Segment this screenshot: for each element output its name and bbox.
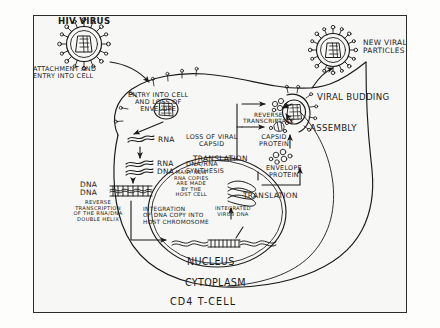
reverse-transcriptase-molecules bbox=[272, 98, 288, 111]
label-cytoplasm: CYTOPLASM bbox=[185, 278, 246, 288]
envelope-protein-molecules bbox=[269, 149, 292, 164]
label-cd4-t-cell: CD4 T-CELL bbox=[170, 297, 236, 307]
label-new-viral-particles: NEW VIRAL PARTICLES bbox=[363, 39, 407, 55]
viral-rna-strand-1 bbox=[128, 136, 154, 142]
label-hiv-virus: HIV VIRUS bbox=[58, 17, 110, 26]
label-integration: INTEGRATION OF DNA COPY INTO HOST CHROMO… bbox=[143, 206, 209, 225]
label-integrated-virus-dna: INTEGRATED VIRUS DNA bbox=[215, 206, 251, 217]
diagram-canvas: HIV VIRUS ATTACHMENT AND ENTRY INTO CELL… bbox=[0, 0, 440, 328]
label-assembly: ASSEMBLY bbox=[310, 124, 357, 133]
label-translation-left: TRANSLATION bbox=[193, 155, 248, 163]
leader-integrated-dna bbox=[236, 227, 243, 238]
host-chromosome-strand bbox=[172, 240, 276, 247]
rna-dna-hybrid-strands bbox=[126, 161, 153, 175]
label-viral-budding: VIRAL BUDDING bbox=[317, 93, 389, 102]
label-rna: RNA bbox=[158, 136, 175, 144]
label-attachment-entry: ATTACHMENT AND ENTRY INTO CELL bbox=[33, 66, 96, 80]
hiv-virion-icon-top-right bbox=[308, 25, 357, 74]
dna-double-helix-ladder bbox=[110, 186, 152, 196]
label-reverse-transcriptase: REVERSE TRANSCRIPTASE bbox=[243, 112, 294, 125]
label-nucleus: NUCLEUS bbox=[187, 257, 235, 267]
arrow-attachment bbox=[110, 62, 149, 82]
label-translation-right: TRANSLATION bbox=[243, 192, 298, 200]
arrow-entry-to-rna bbox=[134, 122, 163, 134]
label-entry-loss-envelope: ENTRY INTO CELL AND LOSS OF ENVELOPE bbox=[128, 92, 188, 113]
label-loss-viral-capsid: LOSS OF VIRAL CAPSID bbox=[186, 134, 238, 148]
label-many-new-rna: MANY NEW RNA COPIES ARE MADE BY THE HOST… bbox=[174, 170, 209, 198]
label-envelope-protein: ENVELOPE PROTEIN bbox=[266, 165, 302, 179]
label-dna-dna: DNA DNA bbox=[80, 181, 97, 197]
label-rna-dna: RNA DNA bbox=[157, 160, 174, 176]
label-reverse-transcription: REVERSE TRANSCRIPTION OF THE RNA/DNA DOU… bbox=[58, 200, 138, 222]
connector-translation-left bbox=[219, 104, 237, 160]
label-capsid-protein: CAPSID PROTEIN bbox=[259, 134, 289, 148]
